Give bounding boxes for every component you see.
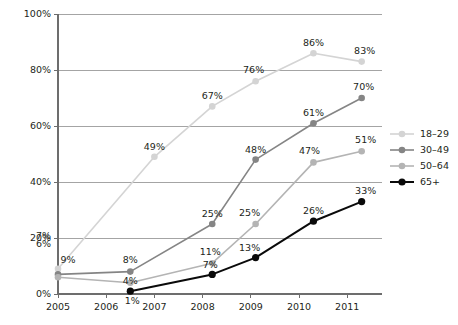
data-point-65+-0[interactable] — [127, 288, 134, 295]
data-point-65+-1[interactable] — [209, 271, 216, 278]
data-point-65+-4[interactable] — [358, 198, 365, 205]
data-label-3049-5: 70% — [353, 81, 374, 92]
data-label-65+-2: 13% — [239, 242, 260, 253]
data-label-1829-3: 76% — [243, 64, 264, 75]
legend: 18–2930–4950–6465+ — [390, 128, 449, 187]
y-tick-label-40: 40% — [30, 176, 51, 187]
data-label-65+-4: 33% — [355, 185, 376, 196]
y-annotation-6pct: 6% — [36, 238, 51, 249]
data-point-5064-5[interactable] — [358, 148, 365, 155]
legend-label-5064[interactable]: 50–64 — [420, 160, 449, 171]
y-tick-label-80: 80% — [30, 64, 51, 75]
legend-label-3049[interactable]: 30–49 — [420, 144, 449, 155]
data-point-1829-2[interactable] — [209, 103, 216, 110]
data-point-3049-2[interactable] — [209, 221, 216, 228]
x-tick-label-2008: 2008 — [191, 301, 215, 312]
data-point-5064-3[interactable] — [252, 221, 259, 228]
data-label-5064-1: 4% — [123, 275, 138, 286]
series-markers — [55, 50, 366, 295]
x-tick-label-2011: 2011 — [335, 301, 359, 312]
data-point-1829-5[interactable] — [358, 58, 365, 65]
data-point-5064-4[interactable] — [310, 159, 317, 166]
data-point-1829-1[interactable] — [151, 154, 158, 161]
data-label-1829-1: 49% — [144, 141, 165, 152]
data-label-65+-3: 26% — [303, 205, 324, 216]
data-point-3049-3[interactable] — [252, 156, 259, 163]
data-label-5064-4: 47% — [299, 145, 320, 156]
x-tick-labels: 2005200620072008200920102011 — [46, 301, 359, 312]
data-point-labels: 9%49%67%76%86%83%7%8%25%48%61%70%6%4%11%… — [50, 37, 376, 306]
y-axis — [54, 14, 58, 294]
y-tick-labels: 0%20%40%60%80%100%7%6% — [24, 8, 51, 299]
data-label-3049-2: 25% — [202, 208, 223, 219]
chart-root: 0%20%40%60%80%100%7%6% 20052006200720082… — [0, 0, 458, 325]
legend-marker-3049 — [399, 147, 406, 154]
y-tick-label-60: 60% — [30, 120, 51, 131]
data-label-1829-2: 67% — [202, 90, 223, 101]
x-tick-label-2005: 2005 — [46, 301, 70, 312]
data-point-3049-5[interactable] — [358, 95, 365, 102]
data-point-1829-3[interactable] — [252, 78, 259, 85]
data-label-65+-1: 7% — [203, 259, 218, 270]
x-tick-label-2007: 2007 — [142, 301, 166, 312]
data-point-65+-3[interactable] — [310, 218, 317, 225]
x-tick-label-2009: 2009 — [239, 301, 263, 312]
data-label-65+-0: 1% — [125, 295, 140, 306]
legend-label-1829[interactable]: 18–29 — [420, 128, 449, 139]
x-axis — [58, 294, 382, 298]
data-label-5064-5: 51% — [355, 134, 376, 145]
data-label-3049-4: 61% — [303, 107, 324, 118]
y-tick-label-0: 0% — [36, 288, 51, 299]
x-tick-label-2010: 2010 — [287, 301, 311, 312]
legend-marker-65+ — [398, 178, 405, 185]
data-label-3049-1: 8% — [123, 254, 138, 265]
legend-marker-5064 — [399, 163, 406, 170]
data-label-3049-3: 48% — [245, 144, 266, 155]
line-chart: 0%20%40%60%80%100%7%6% 20052006200720082… — [0, 0, 458, 325]
data-point-1829-4[interactable] — [310, 50, 317, 57]
legend-label-65+[interactable]: 65+ — [420, 176, 440, 187]
x-tick-label-2006: 2006 — [94, 301, 118, 312]
y-tick-label-100: 100% — [24, 8, 51, 19]
data-label-1829-4: 86% — [303, 37, 324, 48]
data-point-5064-0[interactable] — [55, 274, 62, 281]
legend-marker-1829 — [399, 131, 406, 138]
data-label-5064-2: 11% — [200, 246, 221, 257]
data-label-5064-3: 25% — [239, 207, 260, 218]
data-point-3049-4[interactable] — [310, 120, 317, 127]
data-point-65+-2[interactable] — [252, 254, 259, 261]
data-label-1829-5: 83% — [354, 45, 375, 56]
